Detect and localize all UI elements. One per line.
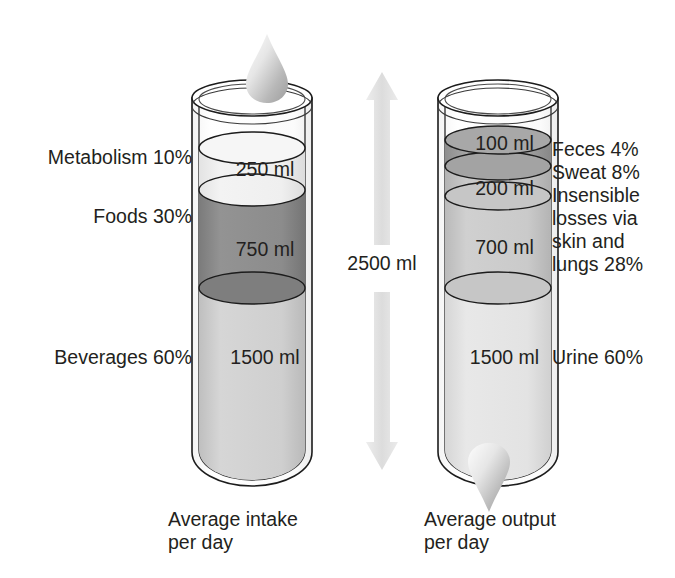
arrow-down-head — [366, 292, 398, 470]
output-water-droplet-icon — [468, 443, 510, 512]
output-caption: Average output per day — [424, 508, 604, 554]
intake-label-metabolism: Metabolism 10% — [48, 146, 192, 169]
water-balance-diagram: Metabolism 10% Foods 30% Beverages 60% 2… — [0, 0, 675, 578]
intake-volume-metabolism: 250 ml — [190, 158, 340, 181]
output-label-urine: Urine 60% — [552, 346, 643, 369]
output-label-sweat: Sweat 8% — [552, 161, 640, 184]
output-insensible-bottom-ellipse — [445, 272, 551, 304]
intake-label-foods: Foods 30% — [93, 205, 192, 228]
intake-volume-beverages: 1500 ml — [190, 346, 340, 369]
output-label-feces: Feces 4% — [552, 138, 639, 161]
output-feces-bottom-ellipse — [445, 152, 551, 180]
diagram-graphics — [0, 0, 675, 578]
output-rim-outer — [438, 80, 558, 116]
intake-water-droplet-icon — [246, 34, 288, 103]
intake-volume-foods: 750 ml — [190, 238, 340, 261]
intake-foods-bottom-ellipse — [199, 272, 305, 304]
intake-caption: Average intake per day — [168, 508, 348, 554]
intake-segment-beverages — [199, 288, 305, 480]
arrow-up-head — [366, 72, 398, 245]
total-volume-label: 2500 ml — [330, 252, 434, 275]
intake-label-beverages: Beverages 60% — [54, 346, 192, 369]
output-label-insensible-losses: Insensible losses via skin and lungs 28% — [552, 184, 643, 276]
